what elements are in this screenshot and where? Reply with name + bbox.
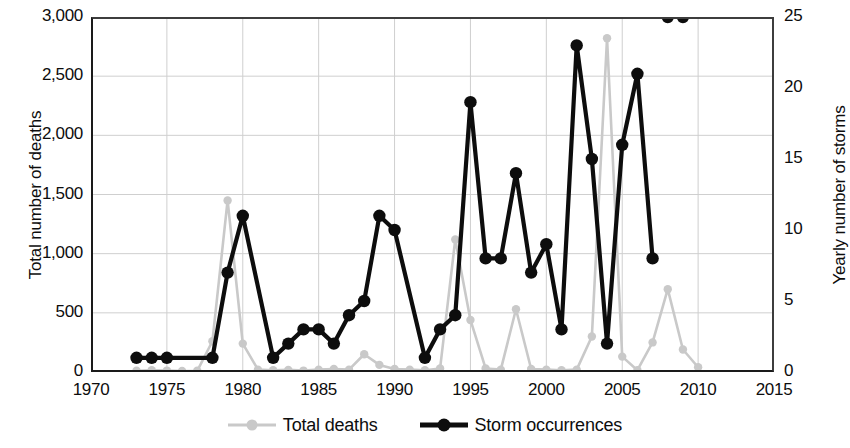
x-axis-tick-label: 1995 [435, 380, 505, 400]
y-axis-left-tick-label: 3,000 [0, 6, 83, 26]
legend-item-storm-occurrences: Storm occurrences [420, 415, 623, 436]
x-axis-tick-label: 2000 [511, 380, 581, 400]
chart-figure: Total number of deaths Yearly number of … [0, 0, 850, 448]
y-axis-left-tick-label: 1,000 [0, 243, 83, 263]
y-axis-left-tick-label: 1,500 [0, 184, 83, 204]
legend-item-total-deaths: Total deaths [228, 415, 378, 436]
plot-area [91, 17, 774, 372]
y-axis-right-title: Yearly number of storms [830, 45, 850, 345]
x-axis-tick-label: 1980 [208, 380, 278, 400]
y-axis-left-tick-label: 500 [0, 302, 83, 322]
y-axis-right-tick-label: 20 [784, 77, 802, 97]
y-axis-right-tick-label: 25 [784, 6, 802, 26]
y-axis-left-tick-label: 2,500 [0, 65, 83, 85]
legend-marker-total-deaths-icon [228, 418, 276, 432]
legend-label-storm-occurrences: Storm occurrences [475, 415, 623, 436]
x-axis-tick-label: 1990 [360, 380, 430, 400]
y-axis-left-tick-label: 2,000 [0, 124, 83, 144]
legend-label-total-deaths: Total deaths [283, 415, 378, 436]
chart-legend: Total deaths Storm occurrences [0, 408, 850, 442]
x-axis-tick-label: 1975 [132, 380, 202, 400]
y-axis-right-tick-label: 10 [784, 219, 802, 239]
x-axis-tick-label: 2005 [587, 380, 657, 400]
y-axis-right-tick-label: 15 [784, 148, 802, 168]
x-axis-tick-label: 2015 [739, 380, 809, 400]
y-axis-right-tick-label: 5 [784, 290, 793, 310]
legend-marker-storm-occurrences-icon [420, 418, 468, 432]
x-axis-tick-label: 1985 [284, 380, 354, 400]
y-axis-left-tick-label: 0 [0, 361, 83, 381]
x-axis-tick-label: 2010 [663, 380, 733, 400]
y-axis-right-tick-label: 0 [784, 361, 793, 381]
x-axis-tick-label: 1970 [56, 380, 126, 400]
plot-frame [91, 17, 774, 372]
